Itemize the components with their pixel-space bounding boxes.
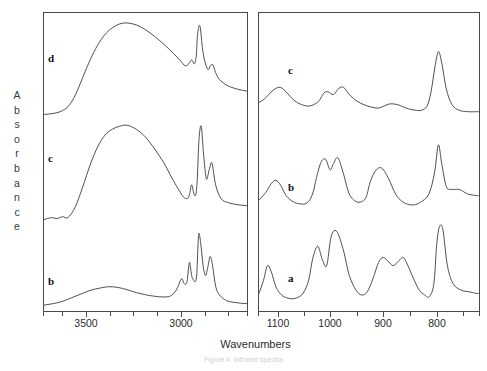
y-axis-label-char-1: b xyxy=(14,103,20,118)
plot-panel-high-wavenumber xyxy=(43,12,248,312)
x-tick-4 xyxy=(357,312,358,316)
y-axis-label-char-6: a xyxy=(14,176,20,191)
curve-label-right-c: c xyxy=(288,64,293,76)
spectrum-trace-left-b xyxy=(44,233,247,305)
y-axis-label-char-8: c xyxy=(14,205,19,220)
x-tick-9 xyxy=(479,312,480,316)
y-axis-label-char-4: r xyxy=(15,146,19,161)
y-axis-label-char-3: o xyxy=(14,132,20,147)
spectrum-trace-left-d xyxy=(44,23,247,115)
y-axis-label: Absorbance xyxy=(6,88,28,234)
plot-panel-fingerprint xyxy=(258,12,480,312)
curve-label-left-b: b xyxy=(48,275,54,287)
x-tick-8 xyxy=(463,312,464,316)
y-axis-label-char-9: e xyxy=(14,219,20,234)
y-axis-label-char-5: b xyxy=(14,161,20,176)
curve-label-right-a: a xyxy=(288,272,294,284)
x-tick-labels-right: 11001000900800 xyxy=(0,317,487,333)
x-axis-label: Wavenumbers xyxy=(0,338,487,350)
x-tick-label-1000: 1000 xyxy=(318,317,341,329)
ftir-figure: Absorbance 35003000 11001000900800 dcbcb… xyxy=(0,0,487,371)
x-tick-6 xyxy=(410,312,411,316)
x-tick-0 xyxy=(258,312,259,316)
spectrum-trace-left-c xyxy=(44,125,247,220)
x-tick-label-800: 800 xyxy=(428,317,446,329)
spectrum-trace-right-b xyxy=(259,145,479,205)
spectra-canvas-left xyxy=(44,13,247,311)
y-axis-label-char-0: A xyxy=(13,88,20,103)
curve-label-left-c: c xyxy=(48,152,53,164)
curve-label-right-b: b xyxy=(288,181,294,193)
figure-caption: Figure 4. Infrared spectra xyxy=(0,356,487,364)
x-tick-label-1100: 1100 xyxy=(267,317,290,329)
x-tick-label-900: 900 xyxy=(374,317,392,329)
spectrum-trace-right-c xyxy=(259,52,479,112)
x-tick-2 xyxy=(304,312,305,316)
curve-label-left-d: d xyxy=(48,52,54,64)
y-axis-label-char-2: s xyxy=(14,117,19,132)
y-axis-label-char-7: n xyxy=(14,190,20,205)
spectra-canvas-right xyxy=(259,13,479,311)
spectrum-trace-right-a xyxy=(259,225,479,299)
x-axis-label-text: Wavenumbers xyxy=(220,338,291,350)
